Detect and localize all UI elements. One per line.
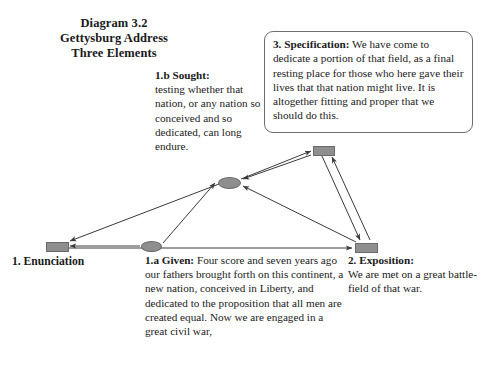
exposition-body: We are met on a great battle-field of th… — [348, 267, 482, 295]
specification-heading: 3. Specification: — [273, 38, 349, 50]
label-given: 1.a Given: Four score and seven years ag… — [145, 253, 345, 338]
edge-specification-to-exposition — [322, 156, 360, 240]
enunciation-heading: 1. Enunciation — [12, 255, 84, 268]
given-heading: 1.a Given: — [145, 254, 194, 266]
sought-heading: 1.b Sought: — [155, 68, 275, 82]
diagram-canvas: Diagram 3.2 Gettysburg Address Three Ele… — [0, 0, 486, 368]
title-line-2: Gettysburg Address — [24, 31, 204, 46]
label-exposition: 2. Exposition: We are met on a great bat… — [348, 253, 482, 296]
node-exposition-marker — [355, 243, 378, 253]
label-enunciation: 1. Enunciation — [12, 255, 136, 269]
edge-exposition-to-sought — [243, 186, 356, 242]
edge-sought-to-specification — [241, 151, 311, 179]
node-sought-marker — [218, 177, 241, 189]
edge-given-to-sought — [163, 183, 215, 243]
specification-body: We have come to dedicate a portion of th… — [273, 38, 463, 121]
title-line-1: Diagram 3.2 — [24, 16, 204, 31]
node-enunciation-marker — [46, 242, 69, 252]
node-specification-marker — [313, 146, 335, 156]
edge-sought-to-enunciation — [70, 184, 219, 241]
label-sought: 1.b Sought: testing whether that nation,… — [155, 68, 275, 153]
callout-specification: 3. Specification: We have come to dedica… — [264, 31, 473, 133]
diagram-title: Diagram 3.2 Gettysburg Address Three Ele… — [24, 16, 204, 61]
edge-specification-to-sought — [243, 155, 311, 179]
sought-body: testing whether that nation, or any nati… — [155, 82, 275, 153]
exposition-heading: 2. Exposition: — [348, 253, 482, 267]
edge-exposition-to-specification — [332, 157, 370, 240]
title-line-3: Three Elements — [24, 46, 204, 61]
node-given-marker — [141, 241, 162, 252]
given-body: Four score and seven years ago our fathe… — [145, 254, 343, 337]
